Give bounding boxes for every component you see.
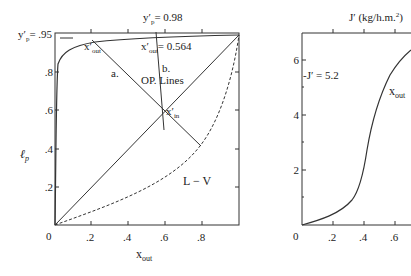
left-x-ticks <box>91 221 202 225</box>
left-chart: y′p= .95 y′p= 0.98 x′out x′out= 0.564 a.… <box>18 11 239 263</box>
right-x-tick-labels: 0 .2 .4 .6 <box>293 230 399 243</box>
figure: y′p= .95 y′p= 0.98 x′out x′out= 0.564 a.… <box>0 0 411 276</box>
svg-text:.6: .6 <box>390 231 399 243</box>
svg-text:4: 4 <box>294 109 300 121</box>
right-ticks <box>302 29 395 225</box>
label-a: a. <box>111 67 119 79</box>
left-x-tick-labels: 0 .2 .4 .6 .8 <box>46 230 206 243</box>
svg-text:.2: .2 <box>328 231 336 243</box>
label-b: b. <box>162 62 171 74</box>
svg-text:.6: .6 <box>45 104 54 116</box>
svg-text:.4: .4 <box>45 143 54 155</box>
yp-098-label: y′p= 0.98 <box>143 11 183 26</box>
xout-value-label: x′out= 0.564 <box>141 40 192 55</box>
svg-text:6: 6 <box>294 54 300 66</box>
diagonal-line <box>55 35 239 225</box>
op-lines-label: OP. Lines <box>141 74 184 86</box>
right-frame <box>302 33 411 225</box>
left-y-tick-labels: .2 .4 .6 .8 <box>45 66 54 193</box>
svg-text:.2: .2 <box>45 181 53 193</box>
right-xout-label: xout <box>389 84 406 100</box>
xout-axis-label: xout <box>136 247 153 263</box>
svg-text:.8: .8 <box>197 231 206 243</box>
xin-prime-label: x′in <box>166 105 180 120</box>
svg-text:.4: .4 <box>359 231 368 243</box>
right-y-tick-labels: 2 4 6 <box>294 54 300 176</box>
lv-label: L − V <box>183 174 211 188</box>
svg-text:0: 0 <box>46 230 52 242</box>
svg-text:2: 2 <box>294 164 300 176</box>
svg-text:.8: .8 <box>45 66 54 78</box>
svg-text:.4: .4 <box>123 231 132 243</box>
svg-text:.2: .2 <box>86 231 94 243</box>
right-chart: J′ (kg/h.m.2) -J′ = 5.2 xout 0 .2 .4 .6 … <box>293 11 411 243</box>
svg-text:.6: .6 <box>160 231 169 243</box>
svg-text:0: 0 <box>293 230 299 242</box>
lp-axis-label: ℓp <box>20 147 29 163</box>
yp-095-label: y′p= .95 <box>18 28 53 43</box>
left-top-ticks <box>91 29 202 33</box>
j-value-label: -J′ = 5.2 <box>303 69 339 81</box>
j-axis-title: J′ (kg/h.m.2) <box>349 11 403 24</box>
